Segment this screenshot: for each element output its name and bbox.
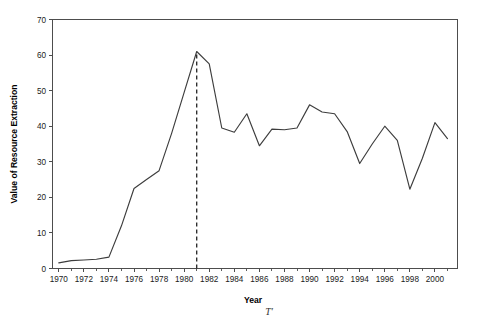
y-tick-label: 0: [41, 265, 46, 274]
x-tick-label: 1976: [125, 275, 144, 284]
x-tick-labels: 1970197219741976197819801982198419861988…: [50, 275, 445, 284]
chart-figure: 010203040506070 197019721974197619781980…: [0, 0, 479, 324]
x-tick-label: 1984: [225, 275, 244, 284]
y-tick-labels: 010203040506070: [37, 16, 47, 274]
axes: [53, 20, 458, 269]
series-line-resource-extraction: [59, 52, 448, 263]
x-tick-label: 1996: [376, 275, 395, 284]
y-axis-title: Value of Resource Extraction: [9, 85, 19, 204]
t-prime-annotation: T′: [265, 306, 274, 317]
y-tick-label: 50: [37, 87, 47, 96]
x-tick-label: 1980: [175, 275, 194, 284]
x-tick-label: 1992: [326, 275, 345, 284]
x-tick-label: 1972: [75, 275, 94, 284]
x-tick-label: 1990: [300, 275, 319, 284]
x-tick-label: 1978: [150, 275, 169, 284]
x-tick-label: 1988: [275, 275, 294, 284]
x-axis-title: Year: [244, 295, 263, 305]
tick-marks: [49, 20, 447, 273]
x-tick-label: 1974: [100, 275, 119, 284]
y-tick-label: 20: [37, 193, 47, 202]
x-tick-label: 2000: [426, 275, 445, 284]
y-tick-label: 30: [37, 158, 47, 167]
data-series: [59, 52, 448, 263]
x-tick-label: 1982: [200, 275, 219, 284]
y-tick-label: 10: [37, 229, 47, 238]
line-chart: 010203040506070 197019721974197619781980…: [0, 0, 479, 324]
y-tick-label: 60: [37, 51, 47, 60]
y-tick-label: 70: [37, 16, 47, 25]
x-tick-label: 1970: [50, 275, 69, 284]
x-tick-label: 1986: [250, 275, 269, 284]
y-tick-label: 40: [37, 122, 47, 131]
x-tick-label: 1994: [351, 275, 370, 284]
x-tick-label: 1998: [401, 275, 420, 284]
